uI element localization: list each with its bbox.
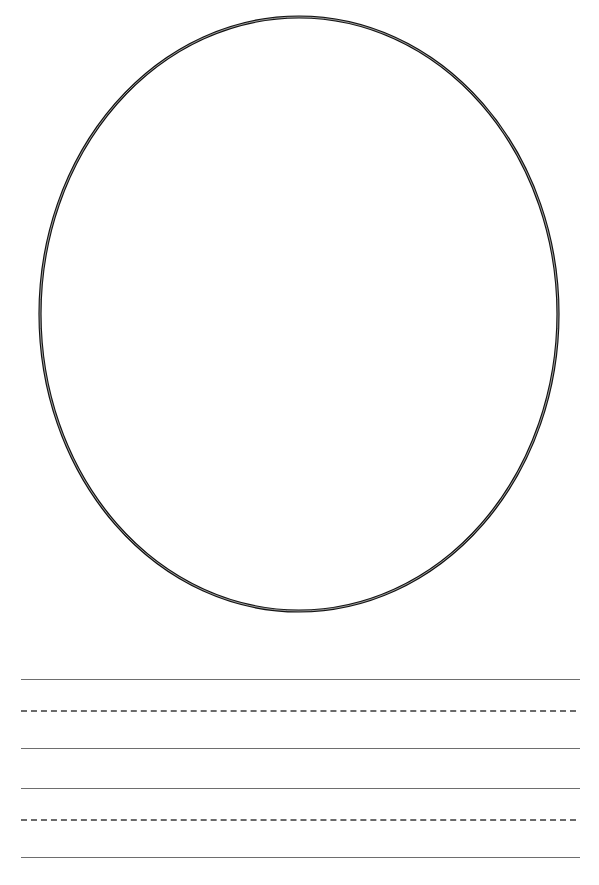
top-solid-line	[21, 679, 580, 680]
top-solid-line	[21, 788, 580, 789]
oval-outer-stroke	[40, 17, 558, 611]
oval-inner-highlight	[40, 17, 558, 611]
bottom-solid-line	[21, 857, 580, 858]
mid-dashed-line	[21, 819, 576, 821]
bottom-solid-line	[21, 748, 580, 749]
mid-dashed-line	[21, 710, 576, 712]
drawing-frame-oval	[0, 0, 599, 640]
